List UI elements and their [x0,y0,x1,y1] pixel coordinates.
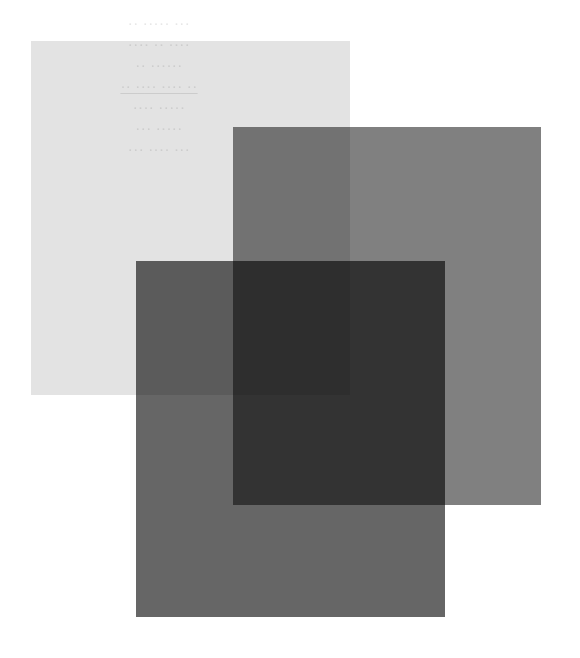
translucent-rect-dark [136,261,445,617]
image-canvas: ·· ····· ··· ···· ·· ···· ·· ······ ·· ·… [0,0,580,658]
watermark-line: ·· ····· ··· [44,14,274,35]
